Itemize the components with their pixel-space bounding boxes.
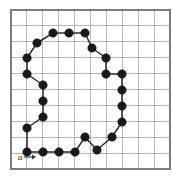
chain-node [23, 124, 32, 133]
chain-node [39, 97, 48, 106]
chain-node [33, 39, 42, 48]
chain-node [108, 133, 117, 142]
chain-node [39, 148, 48, 157]
chain-node [81, 29, 90, 38]
chain-node [102, 70, 111, 79]
chain-node [118, 102, 127, 111]
chain-node [39, 81, 48, 90]
chain-node [65, 29, 74, 38]
chain-node [118, 86, 127, 95]
chain-code-figure: a [0, 0, 172, 181]
chain-node [71, 148, 80, 157]
chain-node [81, 133, 90, 142]
chain-node [23, 70, 32, 79]
chain-node [118, 70, 127, 79]
chain-node [23, 54, 32, 63]
figure-canvas: a [0, 0, 172, 181]
chain-node-start [23, 148, 32, 157]
chain-node [55, 148, 64, 157]
start-point-label: a [18, 152, 23, 162]
chain-node [118, 118, 127, 127]
chain-node [93, 146, 102, 155]
chain-node [88, 44, 97, 53]
chain-node [102, 54, 111, 63]
chain-node [39, 113, 48, 122]
chain-node [49, 29, 58, 38]
